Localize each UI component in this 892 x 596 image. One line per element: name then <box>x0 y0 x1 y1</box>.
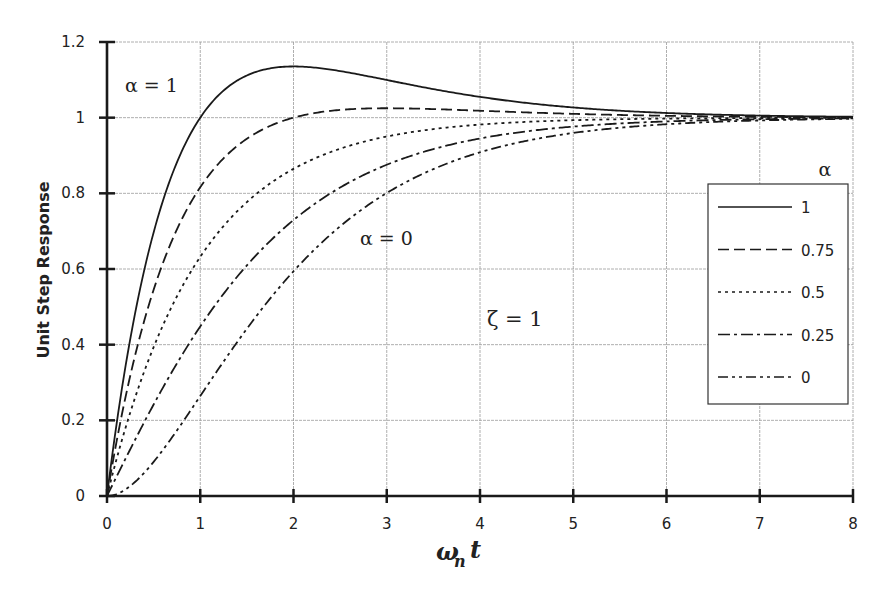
annotation-alpha-0: α = 0 <box>360 227 413 249</box>
legend-title: α <box>819 158 832 180</box>
x-tick-label: 1 <box>195 515 205 533</box>
x-tick-label: 7 <box>755 515 765 533</box>
legend-label: 0.5 <box>801 284 825 302</box>
legend-label: 1 <box>801 199 811 217</box>
legend-box <box>708 184 848 404</box>
legend-label: 0.25 <box>801 327 834 345</box>
step-response-chart: 012345678 00.20.40.60.811.2 Unit Step Re… <box>0 0 892 596</box>
legend-label: 0.75 <box>801 242 834 260</box>
y-tick-label: 0.6 <box>61 260 85 278</box>
annotation-alpha-1: α = 1 <box>125 74 178 96</box>
y-tick-label: 0.2 <box>61 411 85 429</box>
x-axis-label-subscript: n <box>454 552 466 571</box>
x-axis-label: ω n t <box>436 535 481 571</box>
y-tick-label: 0.4 <box>61 336 85 354</box>
x-tick-label: 6 <box>662 515 672 533</box>
annotation-zeta-1: ζ = 1 <box>487 307 543 331</box>
x-tick-label: 8 <box>848 515 858 533</box>
y-tick-label: 1 <box>75 109 85 127</box>
x-tick-label: 0 <box>102 515 112 533</box>
y-tick-label: 0.8 <box>61 184 85 202</box>
x-tick-labels: 012345678 <box>102 515 858 533</box>
x-axis-label-t: t <box>470 535 481 564</box>
x-tick-label: 2 <box>289 515 299 533</box>
x-tick-label: 5 <box>568 515 578 533</box>
x-tick-label: 3 <box>382 515 392 533</box>
y-tick-label: 0 <box>75 487 85 505</box>
x-tick-label: 4 <box>475 515 485 533</box>
y-axis-label: Unit Step Response <box>34 181 53 358</box>
y-tick-label: 1.2 <box>61 33 85 51</box>
legend: α 10.750.50.250 <box>708 158 848 404</box>
y-tick-labels: 00.20.40.60.811.2 <box>61 33 85 505</box>
legend-label: 0 <box>801 369 811 387</box>
